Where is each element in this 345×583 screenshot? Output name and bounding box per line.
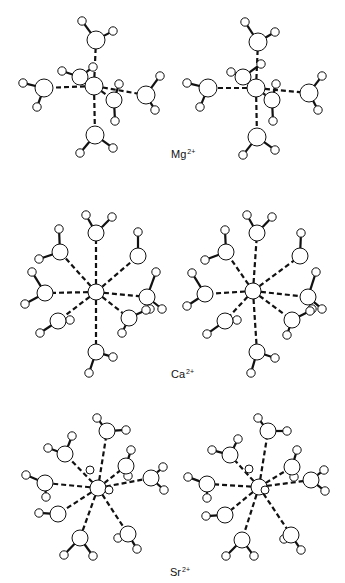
oxygen-atom [264, 92, 280, 108]
oxygen-atom [292, 248, 308, 264]
stereo-view [183, 18, 326, 159]
hydrogen-atom [133, 545, 141, 553]
hydrogen-atom [108, 213, 116, 221]
oxygen-atom [86, 466, 94, 474]
hydrogen-atom [272, 80, 280, 88]
oxygen-atom [99, 423, 115, 439]
stereo-view [19, 17, 164, 157]
hydrogen-atom [134, 228, 142, 236]
water-molecule [60, 530, 97, 560]
hydrogen-atom [221, 226, 229, 234]
water-molecule [78, 17, 117, 49]
hydrogen-atom [109, 353, 117, 361]
hydrogen-atom [196, 103, 204, 111]
hydrogen-atom [233, 316, 241, 324]
water-molecule [264, 80, 280, 125]
hydrogen-atom [184, 473, 192, 481]
hydrogen-atom [243, 211, 251, 219]
oxygen-atom [284, 459, 300, 475]
water-molecule [254, 414, 291, 439]
oxygen-atom [106, 92, 122, 108]
hydrogen-atom [250, 552, 258, 560]
coordination-bond [259, 296, 285, 315]
coordination-bond [256, 97, 257, 128]
hydrogen-atom [118, 329, 126, 337]
hydrogen-atom [44, 444, 52, 452]
ca-panel [21, 211, 326, 377]
water-molecule [85, 344, 117, 377]
hydrogen-atom [239, 151, 247, 159]
hydrogen-atom [19, 79, 27, 87]
oxygen-atom [284, 312, 300, 328]
hydrogen-atom [55, 225, 63, 233]
hydrogen-atom [93, 414, 101, 422]
water-molecule [22, 471, 53, 501]
water-molecule [82, 211, 116, 241]
oxygen-atom [87, 31, 105, 49]
oxygen-atom [249, 33, 267, 51]
oxygen-atom [303, 472, 319, 488]
hydrogen-atom [269, 117, 277, 125]
oxygen-atom [120, 526, 136, 542]
hydrogen-atom [306, 307, 314, 315]
hydrogen-atom [283, 427, 291, 435]
oxygen-atom [52, 244, 68, 260]
oxygen-atom [86, 126, 104, 144]
hydrogen-atom [89, 63, 97, 71]
coordination-bond [94, 95, 95, 126]
water-molecule [35, 225, 68, 263]
water-molecule [183, 79, 217, 111]
oxygen-atom [248, 128, 266, 146]
hydrogen-atom [254, 414, 262, 422]
hydrogen-atom [152, 268, 160, 276]
oxygen-atom [197, 286, 213, 302]
coordination-bond [263, 494, 286, 529]
coordination-bond [231, 492, 253, 510]
hydrogen-atom [183, 79, 191, 87]
hydrogen-atom [111, 117, 119, 125]
hydrogen-atom [115, 80, 123, 88]
oxygen-atom [137, 86, 155, 104]
hydrogen-atom [42, 493, 50, 501]
coordination-bond [65, 258, 90, 286]
water-molecule [118, 446, 135, 480]
hydrogen-atom [156, 72, 164, 80]
hydrogen-atom [241, 18, 249, 26]
coordination-bond [102, 495, 123, 528]
ca-label: Ca2+ [171, 368, 194, 380]
coordination-bond [101, 91, 107, 95]
oxygen-atom [37, 475, 53, 491]
hydrogen-atom [201, 256, 209, 264]
sr-panel [22, 414, 329, 560]
hydrogen-atom [109, 27, 117, 35]
hydrogen-atom [271, 28, 279, 36]
hydrogen-atom [158, 305, 166, 313]
water-molecule [106, 80, 123, 125]
hydrogen-atom [222, 552, 230, 560]
hydrogen-atom [247, 369, 255, 377]
hydrogen-atom [28, 268, 36, 276]
hydrogen-atom [89, 552, 97, 560]
water-molecule [93, 414, 130, 439]
coordination-bond [53, 86, 85, 87]
hydrogen-atom [109, 144, 117, 152]
hydrogen-atom [142, 306, 150, 314]
ion-charge: 2+ [182, 566, 190, 573]
oxygen-atom [118, 458, 134, 474]
water-molecule [105, 486, 113, 494]
water-molecule [19, 79, 53, 111]
water-molecule [76, 126, 117, 157]
hydrogen-atom [283, 331, 291, 339]
oxygen-atom [105, 486, 113, 494]
ion-symbol: Mg [171, 148, 186, 160]
hydrogen-atom [208, 446, 216, 454]
hydrogen-atom [268, 213, 276, 221]
oxygen-atom [121, 310, 137, 326]
water-molecule [247, 344, 279, 377]
coordination-bond [65, 492, 92, 509]
coordination-bond [261, 292, 300, 296]
water-molecule [36, 313, 74, 337]
hydrogen-atom [320, 466, 328, 474]
oxygen-atom [35, 79, 53, 97]
stereo-view [184, 414, 329, 560]
